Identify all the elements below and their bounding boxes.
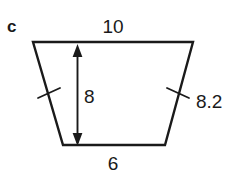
figure-container: c 10 6 8 8.2 [0, 0, 231, 183]
top-base-length-label: 10 [0, 17, 226, 36]
trapezoid-shape [33, 42, 193, 145]
height-length-label: 8 [84, 87, 95, 106]
leg-length-label: 8.2 [196, 92, 222, 111]
bottom-base-length-label: 6 [0, 154, 226, 173]
